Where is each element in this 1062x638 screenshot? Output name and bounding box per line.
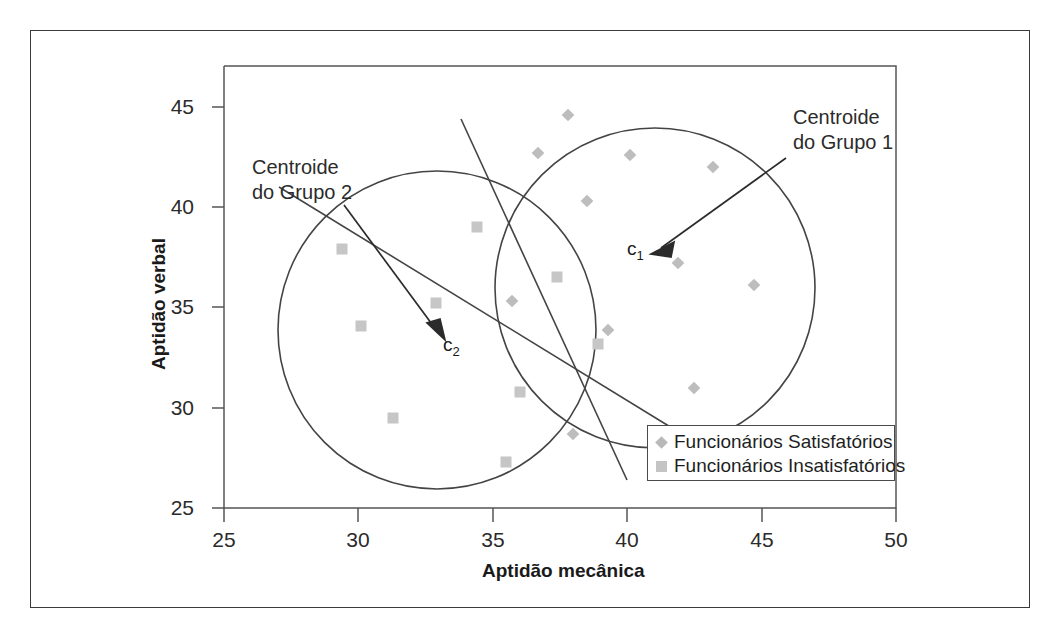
- x-tick-45: 45: [750, 528, 773, 552]
- annotation-group1-line2: do Grupo 1: [793, 130, 893, 155]
- legend-label-satisfatorios: Funcionários Satisfatórios: [674, 431, 893, 453]
- centroid-c2-subscript: 2: [453, 344, 460, 359]
- data-point-insatisfatorio: [388, 412, 399, 423]
- square-marker-icon: [656, 461, 667, 472]
- data-point-insatisfatorio: [501, 456, 512, 467]
- annotation-group2: Centroide do Grupo 2: [252, 155, 352, 205]
- legend-item-satisfatorios: Funcionários Satisfatórios: [655, 430, 888, 454]
- annotation-group2-line1: Centroide: [252, 155, 352, 180]
- centroid-c1-subscript: 1: [637, 248, 644, 263]
- data-point-insatisfatorio: [356, 320, 367, 331]
- data-point-insatisfatorio: [552, 272, 563, 283]
- data-point-insatisfatorio: [471, 222, 482, 233]
- legend-item-insatisfatorios: Funcionários Insatisfatórios: [655, 454, 888, 478]
- x-tick-25: 25: [212, 528, 235, 552]
- data-point-insatisfatorio: [592, 338, 603, 349]
- centroid-label-c2: c2: [443, 334, 460, 359]
- centroid-label-c1: c1: [627, 238, 644, 263]
- annotation-group2-line2: do Grupo 2: [252, 180, 352, 205]
- centroid-c2-symbol: c: [443, 334, 453, 355]
- y-tick-25: 25: [160, 496, 194, 520]
- annotation-group1: Centroide do Grupo 1: [793, 105, 893, 155]
- data-point-insatisfatorio: [514, 386, 525, 397]
- x-axis-title: Aptidão mecânica: [482, 560, 645, 582]
- data-point-insatisfatorio: [337, 244, 348, 255]
- centroid-c1-symbol: c: [627, 238, 637, 259]
- annotation-group1-line1: Centroide: [793, 105, 893, 130]
- x-tick-40: 40: [615, 528, 638, 552]
- diamond-marker-icon: [655, 436, 668, 449]
- figure-container: 45 40 35 30 25 25 30 35 40 45 50 Aptidão…: [0, 0, 1062, 638]
- x-tick-30: 30: [346, 528, 369, 552]
- y-tick-45: 45: [160, 95, 194, 119]
- y-axis-title: Aptidão verbal: [148, 238, 170, 370]
- legend: Funcionários Satisfatórios Funcionários …: [647, 425, 895, 481]
- x-tick-50: 50: [884, 528, 907, 552]
- x-tick-35: 35: [481, 528, 504, 552]
- data-point-insatisfatorio: [431, 298, 442, 309]
- y-tick-30: 30: [160, 396, 194, 420]
- legend-label-insatisfatorios: Funcionários Insatisfatórios: [674, 455, 905, 477]
- y-tick-40: 40: [160, 195, 194, 219]
